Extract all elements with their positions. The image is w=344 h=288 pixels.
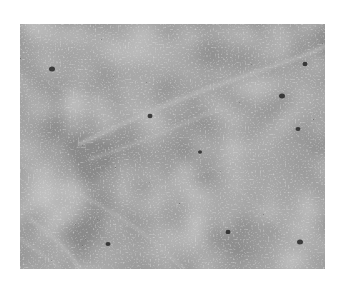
page [0, 0, 344, 288]
histology-micrograph [20, 24, 325, 269]
nuclei-texture [20, 24, 325, 269]
micrograph-image [20, 24, 325, 269]
